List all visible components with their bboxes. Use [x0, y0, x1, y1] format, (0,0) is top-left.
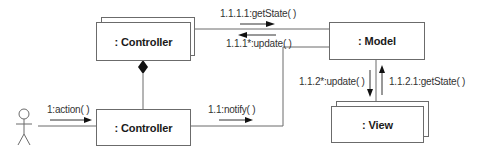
arrow-notify-icon [219, 117, 253, 123]
controller-top-label: : Controller [97, 36, 190, 48]
message-get-state-view: 1.1.2.1:getState( ) [389, 76, 465, 87]
controller-top-object[interactable]: : Controller [96, 22, 191, 61]
controller-bottom-object[interactable]: : Controller [96, 109, 191, 146]
controller-bottom-label: : Controller [97, 122, 190, 134]
stick-figure-icon [16, 109, 32, 145]
composition-diamond-icon [138, 60, 148, 74]
message-notify: 1.1:notify( ) [208, 104, 255, 115]
message-update-view: 1.1.2*:update( ) [299, 76, 365, 87]
message-action: 1:action( ) [47, 104, 89, 115]
collaboration-diagram: : Controller : Controller : Model : View… [0, 0, 477, 154]
arrow-get-state-controller-icon [240, 21, 275, 27]
view-label: : View [332, 119, 423, 131]
arrow-update-view-icon [367, 70, 373, 97]
arrow-action-icon [50, 117, 92, 123]
model-object[interactable]: : Model [329, 22, 425, 60]
message-get-state-controller: 1.1.1.1:getState( ) [220, 8, 296, 19]
message-update-controller: 1.1.1*:update( ) [226, 38, 292, 49]
arrow-get-state-view-icon [379, 65, 385, 95]
model-label: : Model [330, 35, 424, 47]
view-object[interactable]: : View [331, 106, 424, 143]
